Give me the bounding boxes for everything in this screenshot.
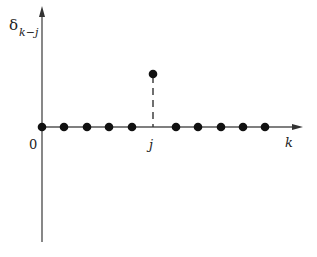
dot — [105, 123, 114, 132]
dot — [128, 123, 137, 132]
dot — [194, 123, 203, 132]
dot — [60, 123, 69, 132]
delta-plot: δ k−j 0 j k — [0, 0, 317, 257]
dot — [261, 123, 270, 132]
impulse-j-label: j — [146, 137, 153, 152]
y-axis-arrow-icon — [39, 6, 45, 17]
impulse-dot — [149, 70, 158, 79]
x-axis-arrow-icon — [292, 124, 303, 130]
dot — [239, 123, 248, 132]
dot — [172, 123, 181, 132]
dot — [217, 123, 226, 132]
dot — [83, 123, 92, 132]
x-axis-label: k — [285, 135, 293, 150]
dot — [38, 123, 47, 132]
y-axis-label-subscript: k−j — [19, 26, 39, 39]
origin-label: 0 — [29, 137, 37, 152]
y-axis-label-symbol: δ — [9, 16, 18, 34]
